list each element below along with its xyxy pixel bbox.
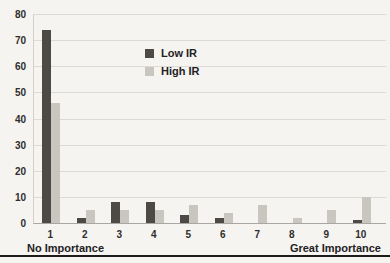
x-tick-label-10: 10: [349, 229, 373, 240]
bar-low-ir-cat-3: [111, 202, 120, 223]
x-tick-label-2: 2: [73, 229, 97, 240]
gridline-y-30: [34, 145, 386, 146]
bottom-divider: [0, 255, 390, 257]
gridline-y-50: [34, 92, 386, 93]
bar-high-ir-cat-2: [86, 210, 95, 223]
x-axis-label-left: No Importance: [27, 242, 104, 254]
gridline-y-60: [34, 66, 386, 67]
y-tick-label-70: 70: [0, 35, 26, 46]
gridline-y-20: [34, 171, 386, 172]
bar-high-ir-cat-4: [155, 210, 164, 223]
y-tick-label-80: 80: [0, 9, 26, 20]
x-tick-label-3: 3: [107, 229, 131, 240]
y-tick-label-30: 30: [0, 140, 26, 151]
legend-item-low-ir: Low IR: [145, 44, 200, 62]
y-tick-label-0: 0: [0, 218, 26, 229]
x-tick-label-9: 9: [314, 229, 338, 240]
bar-low-ir-cat-6: [215, 218, 224, 223]
x-tick-label-6: 6: [211, 229, 235, 240]
bar-low-ir-cat-4: [146, 202, 155, 223]
x-tick-label-1: 1: [38, 229, 62, 240]
gridline-y-10: [34, 197, 386, 198]
bar-chart: 01020304050607080 12345678910 Low IRHigh…: [0, 0, 390, 263]
bar-high-ir-cat-5: [189, 205, 198, 223]
x-axis-label-right: Great Importance: [290, 242, 381, 254]
bar-low-ir-cat-10: [353, 220, 362, 223]
x-tick-label-4: 4: [142, 229, 166, 240]
y-tick-label-10: 10: [0, 192, 26, 203]
gridline-y-40: [34, 119, 386, 120]
legend-swatch-low-ir: [145, 49, 154, 58]
bar-high-ir-cat-1: [51, 103, 60, 223]
bar-high-ir-cat-3: [120, 210, 129, 223]
legend: Low IRHigh IR: [145, 44, 200, 80]
x-tick-label-8: 8: [280, 229, 304, 240]
y-tick-label-60: 60: [0, 61, 26, 72]
x-tick-label-5: 5: [176, 229, 200, 240]
bar-low-ir-cat-1: [42, 30, 51, 223]
y-tick-label-20: 20: [0, 166, 26, 177]
bar-high-ir-cat-9: [327, 210, 336, 223]
plot-area: [33, 14, 386, 224]
bar-low-ir-cat-5: [180, 215, 189, 223]
bar-high-ir-cat-6: [224, 213, 233, 223]
gridline-y-70: [34, 40, 386, 41]
legend-item-high-ir: High IR: [145, 62, 200, 80]
legend-swatch-high-ir: [145, 67, 154, 76]
bar-low-ir-cat-2: [77, 218, 86, 223]
y-tick-label-40: 40: [0, 114, 26, 125]
bar-high-ir-cat-10: [362, 197, 371, 223]
bar-high-ir-cat-8: [293, 218, 302, 223]
x-tick-label-7: 7: [245, 229, 269, 240]
legend-label-low-ir: Low IR: [161, 47, 197, 59]
bar-high-ir-cat-7: [258, 205, 267, 223]
legend-label-high-ir: High IR: [161, 65, 200, 77]
gridline-y-80: [34, 14, 386, 15]
y-tick-label-50: 50: [0, 87, 26, 98]
